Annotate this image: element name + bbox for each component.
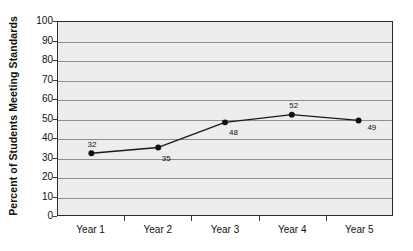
data-point-label: 48 bbox=[229, 129, 238, 137]
y-axis-tick-label: 60 bbox=[29, 94, 53, 104]
x-axis-tick-label: Year 2 bbox=[124, 224, 191, 236]
y-axis-tick-label: 30 bbox=[29, 153, 53, 163]
x-axis-tick-mark bbox=[191, 216, 192, 221]
data-point-label: 49 bbox=[367, 124, 376, 132]
y-axis-tick-labels: 0102030405060708090100 bbox=[28, 0, 53, 251]
x-axis-tick-mark bbox=[326, 216, 327, 221]
x-axis-tick-label: Year 4 bbox=[259, 224, 326, 236]
x-axis-tick-label: Year 1 bbox=[57, 224, 124, 236]
y-axis-tick-label: 80 bbox=[29, 55, 53, 65]
data-point-marker bbox=[155, 144, 161, 150]
y-axis-title: Percent of Students Meeting Standards bbox=[0, 0, 26, 232]
plot-area: 3235485249 bbox=[57, 21, 393, 216]
x-axis-tick-label: Year 3 bbox=[191, 224, 258, 236]
data-point-marker bbox=[88, 150, 94, 156]
x-axis-tick-label: Year 5 bbox=[326, 224, 393, 236]
y-axis-tick-label: 20 bbox=[29, 172, 53, 182]
data-point-marker bbox=[222, 119, 228, 125]
y-axis-tick-label: 50 bbox=[29, 114, 53, 124]
y-axis-tick-label: 0 bbox=[29, 211, 53, 221]
data-point-label: 32 bbox=[88, 141, 97, 149]
data-point-marker bbox=[356, 117, 362, 123]
data-point-label: 35 bbox=[162, 155, 171, 163]
data-point-marker bbox=[289, 112, 295, 118]
y-axis-tick-label: 10 bbox=[29, 192, 53, 202]
y-axis-tick-label: 90 bbox=[29, 36, 53, 46]
x-axis-tick-mark bbox=[124, 216, 125, 221]
y-axis-tick-mark bbox=[53, 216, 57, 217]
data-point-label: 52 bbox=[289, 102, 298, 110]
y-axis-tick-label: 40 bbox=[29, 133, 53, 143]
data-series-line bbox=[58, 22, 392, 215]
x-axis-tick-mark bbox=[259, 216, 260, 221]
line-chart-figure: Percent of Students Meeting Standards 01… bbox=[0, 0, 413, 251]
y-axis-tick-label: 70 bbox=[29, 75, 53, 85]
y-axis-title-text: Percent of Students Meeting Standards bbox=[7, 16, 19, 216]
y-axis-tick-label: 100 bbox=[29, 16, 53, 26]
